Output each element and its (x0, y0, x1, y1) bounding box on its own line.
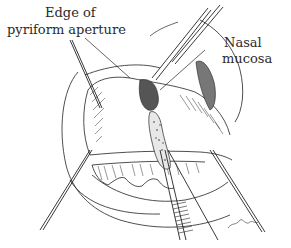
mucosa-flap (196, 61, 215, 110)
label-nasal: Nasal (224, 36, 262, 50)
label-edge-of: Edge of (45, 6, 96, 20)
signature-scribble (228, 220, 258, 228)
label-pyriform-aperture: pyriform aperture (7, 23, 126, 37)
leader-line-aperture (85, 38, 130, 78)
nasal-mucosa-region (139, 80, 158, 111)
label-mucosa: mucosa (222, 52, 272, 66)
